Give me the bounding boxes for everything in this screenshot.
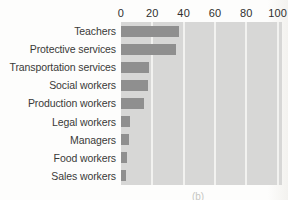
category-label: Production workers bbox=[0, 94, 116, 112]
bar bbox=[121, 62, 149, 73]
category-label: Managers bbox=[0, 131, 116, 149]
bar bbox=[121, 26, 179, 37]
gridline bbox=[277, 22, 279, 185]
subfigure-caption: (b) bbox=[184, 191, 212, 200]
plot-area bbox=[121, 22, 282, 185]
category-label: Social workers bbox=[0, 76, 116, 94]
category-label: Food workers bbox=[0, 149, 116, 167]
bar bbox=[121, 134, 129, 145]
x-tick-label: 40 bbox=[177, 7, 190, 19]
bar bbox=[121, 98, 144, 109]
bar bbox=[121, 80, 148, 91]
gridline bbox=[245, 22, 247, 185]
x-tick-label: 20 bbox=[146, 7, 159, 19]
x-axis: 020406080100 bbox=[0, 0, 288, 22]
category-label: Transportation services bbox=[0, 58, 116, 76]
x-tick-label: 0 bbox=[118, 7, 124, 19]
gridline bbox=[183, 22, 185, 185]
x-tick-label: 80 bbox=[240, 7, 253, 19]
bar bbox=[121, 116, 130, 127]
category-label: Teachers bbox=[0, 22, 116, 40]
x-tick-label: 60 bbox=[209, 7, 222, 19]
bar bbox=[121, 152, 127, 163]
category-label: Legal workers bbox=[0, 113, 116, 131]
gridline bbox=[214, 22, 216, 185]
bar bbox=[121, 170, 126, 181]
x-tick-label: 100 bbox=[268, 7, 287, 19]
category-label: Protective services bbox=[0, 40, 116, 58]
bar-chart-figure: 020406080100 TeachersProtective services… bbox=[0, 0, 288, 200]
category-label: Sales workers bbox=[0, 167, 116, 185]
bar bbox=[121, 44, 176, 55]
